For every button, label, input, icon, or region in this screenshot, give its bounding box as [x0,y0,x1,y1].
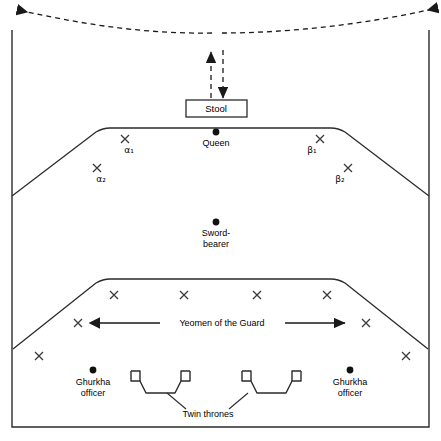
person-dots [90,129,354,374]
entry-exit-arrows [211,50,223,98]
cross-yeoman-right-flank [362,319,370,327]
stool-label: Stool [205,103,227,114]
diagram-canvas: Stool Queen Sword- bearer α₁ α₂ β₁ β₂ Ye… [0,0,441,441]
dot-sword-bearer [213,219,220,226]
ghurkha-officer-right-label: Ghurkha officer [333,377,368,398]
cross-alpha1 [121,135,129,143]
cross-corner-left [35,352,43,360]
beta1-label: β₁ [307,145,316,156]
cross-beta1 [316,135,324,143]
cross-yeoman-4 [323,291,331,299]
cross-yeoman-1 [110,291,118,299]
sword-bearer-label: Sword- bearer [202,228,231,249]
twin-thrones-label: Twin thrones [182,409,233,420]
throne-right-icon [242,371,301,393]
dot-ghurkha-officer-left [90,367,97,374]
throne-left-icon [131,371,190,393]
alpha1-label: α₁ [124,145,134,156]
beta2-label: β₂ [335,174,344,185]
cross-alpha2 [93,164,101,172]
throne-leader-lines [167,393,248,409]
cross-yeoman-3 [253,291,261,299]
lower-dais-outline [13,279,428,349]
cross-corner-right [402,352,410,360]
yeomen-label: Yeomen of the Guard [175,318,268,329]
dot-queen [213,129,220,136]
procession-route-arc [18,8,437,33]
cross-yeoman-left-flank [74,319,82,327]
seating-plan-figure [0,0,441,441]
dot-ghurkha-officer-right [347,367,354,374]
cross-yeoman-2 [180,291,188,299]
alpha2-label: α₂ [96,174,106,185]
cross-beta2 [344,164,352,172]
ghurkha-officer-left-label: Ghurkha officer [76,377,111,398]
queen-label: Queen [202,138,229,149]
